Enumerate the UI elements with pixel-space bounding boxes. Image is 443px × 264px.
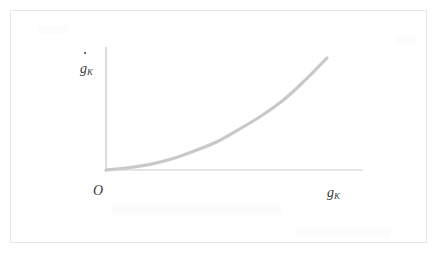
dot-accent-icon — [84, 52, 86, 54]
y-axis-label: gK — [80, 62, 93, 77]
data-curve — [106, 58, 327, 170]
origin-label: O — [93, 184, 103, 198]
figure-root: gK gK O — [0, 0, 443, 264]
y-axis-label-subscript: K — [87, 67, 93, 77]
x-axis-label: gK — [327, 186, 340, 201]
x-axis-label-base: g — [327, 186, 334, 200]
y-axis-label-base: g — [80, 62, 87, 76]
plot-canvas — [0, 0, 443, 264]
x-axis-label-subscript: K — [334, 191, 340, 201]
